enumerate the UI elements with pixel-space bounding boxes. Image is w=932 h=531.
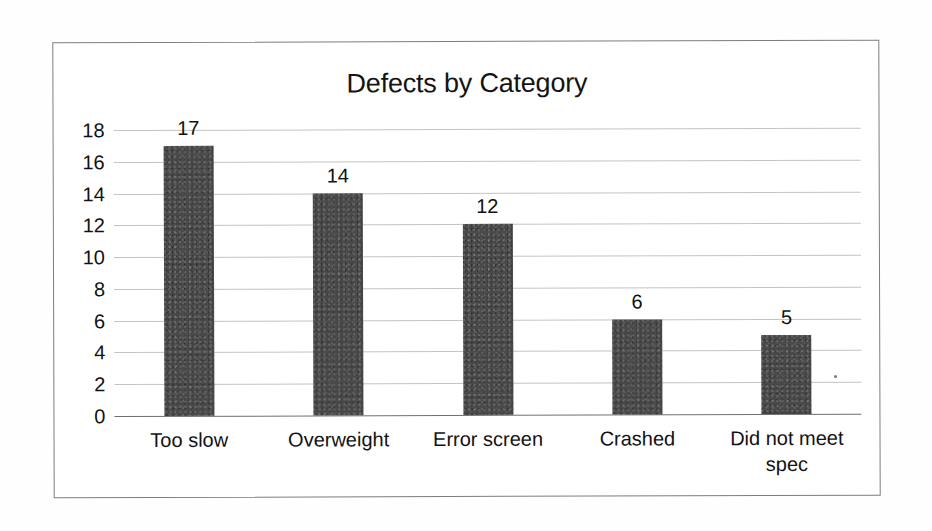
- y-axis-tick-label: 16: [82, 152, 104, 172]
- y-axis-tick-label: 10: [83, 247, 105, 267]
- bar[interactable]: [462, 224, 513, 415]
- x-axis-category-label: Error screen: [413, 427, 563, 453]
- chart-title: Defects by Category: [53, 67, 880, 101]
- bar-series: 17Too slow14Overweight12Error screen6Cra…: [114, 128, 862, 416]
- bar[interactable]: [163, 146, 214, 416]
- plot-area: 181614121086420 17Too slow14Overweight12…: [114, 128, 862, 416]
- bar-group: 14Overweight: [313, 129, 364, 415]
- bar-value-label: 12: [476, 196, 498, 216]
- scanned-page: Defects by Category 181614121086420 17To…: [0, 0, 932, 531]
- x-axis-category-label: Too slow: [114, 428, 264, 454]
- y-axis-tick-label: 6: [94, 311, 105, 331]
- y-axis-tick-label: 2: [94, 374, 105, 394]
- bar-value-label: 6: [631, 291, 642, 311]
- bar[interactable]: [313, 193, 364, 416]
- bar-group: 5Did not meet spec: [761, 128, 812, 414]
- y-axis-tick-label: 18: [82, 120, 104, 140]
- bar-value-label: 5: [781, 307, 792, 327]
- bar[interactable]: [612, 319, 662, 414]
- bar-group: 17Too slow: [163, 130, 214, 416]
- bar-value-label: 14: [327, 165, 349, 185]
- x-axis-category-label: Crashed: [562, 426, 712, 452]
- x-axis-category-label: Did not meet spec: [712, 426, 862, 478]
- bar-group: 6Crashed: [611, 128, 662, 414]
- y-axis-tick-label: 14: [82, 184, 104, 204]
- y-axis-tick-label: 12: [83, 215, 105, 235]
- chart-frame: Defects by Category 181614121086420 17To…: [52, 40, 880, 499]
- y-axis-tick-label: 0: [94, 406, 105, 426]
- y-axis-tick-label: 8: [94, 279, 105, 299]
- scan-speck-artifact: [834, 375, 837, 378]
- bar-group: 12Error screen: [462, 129, 513, 415]
- bar-value-label: 17: [177, 118, 199, 138]
- x-axis-category-label: Overweight: [264, 427, 414, 453]
- y-axis-tick-label: 4: [94, 343, 105, 363]
- bar[interactable]: [762, 334, 812, 414]
